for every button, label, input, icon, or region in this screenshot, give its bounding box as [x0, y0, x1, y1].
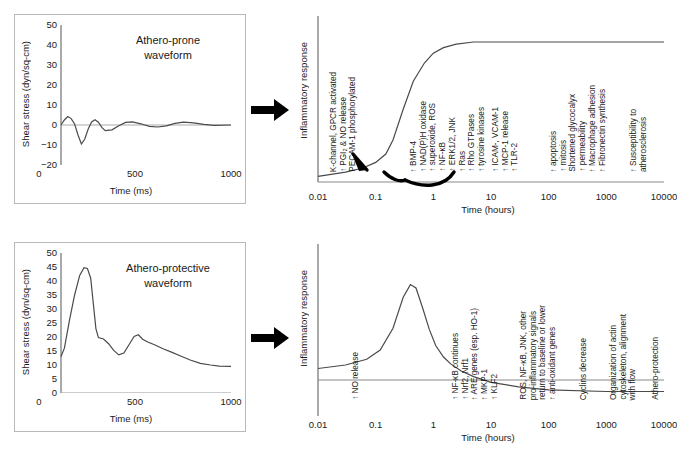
- x-tick-label: 100: [541, 192, 557, 202]
- title-line-1: Athero-protective: [95, 261, 241, 276]
- y-tick-label: 0: [52, 120, 57, 130]
- y-tick-label: 40: [46, 40, 57, 50]
- athero-protective-title: Athero-protective waveform: [95, 261, 241, 291]
- right-block-arrow: [250, 324, 290, 352]
- x-tick-label: 1000: [220, 397, 241, 407]
- x-tick-label: 0.1: [369, 420, 382, 430]
- waveform-x-axis-label: Time (ms): [15, 413, 247, 424]
- y-tick-label: 10: [46, 100, 57, 110]
- title-line-2: waveform: [95, 276, 241, 291]
- waveform-y-ticks: 50454035302520151050: [31, 253, 57, 393]
- x-tick-label: 0.1: [369, 192, 382, 202]
- x-tick-label: 1000: [596, 192, 617, 202]
- athero-protective-row: Shear stress (dyn/sq-cm) 504540353025201…: [0, 236, 670, 446]
- y-tick-label: 30: [46, 60, 57, 70]
- y-tick-label: 15: [46, 346, 57, 356]
- y-tick-label: 45: [46, 262, 57, 272]
- athero-protective-response-panel: Inflammatory response ↑ NO release↑ NF-κ…: [296, 236, 670, 446]
- y-tick-label: 25: [46, 318, 57, 328]
- x-tick-label: 100: [541, 420, 557, 430]
- athero-protective-response-plot: [312, 240, 664, 418]
- athero-prone-waveform-panel: Shear stress (dyn/sq-cm) 50403020100−10−…: [14, 14, 246, 204]
- y-tick-label: 50: [46, 20, 57, 30]
- title-line-1: Athero-prone: [95, 33, 241, 48]
- response-y-axis-label: Inflammatory response: [296, 242, 311, 394]
- y-tick-label: −10: [41, 140, 57, 150]
- athero-prone-title: Athero-prone waveform: [95, 33, 241, 63]
- y-tick-label: 5: [52, 374, 57, 384]
- x-tick-label: 500: [127, 169, 143, 179]
- x-tick-label: 10: [486, 420, 497, 430]
- response-y-axis-label: Inflammatory response: [296, 14, 311, 166]
- right-block-arrow: [250, 96, 290, 124]
- x-tick-label: 1: [431, 192, 436, 202]
- y-tick-label: 30: [46, 304, 57, 314]
- waveform-x-ticks: 05001000: [39, 169, 239, 183]
- athero-prone-row: Shear stress (dyn/sq-cm) 50403020100−10−…: [0, 8, 670, 218]
- x-tick-label: 0.01: [309, 420, 328, 430]
- x-tick-label: 0.01: [309, 192, 328, 202]
- x-tick-label: 10: [486, 192, 497, 202]
- x-tick-label: 1: [431, 420, 436, 430]
- x-tick-label: 500: [127, 397, 143, 407]
- title-line-2: waveform: [95, 48, 241, 63]
- waveform-y-ticks: 50403020100−10−20: [31, 25, 57, 165]
- x-tick-label: 0: [36, 397, 41, 407]
- y-tick-label: 20: [46, 332, 57, 342]
- y-tick-label: 40: [46, 276, 57, 286]
- y-tick-label: 20: [46, 80, 57, 90]
- x-tick-label: 1000: [220, 169, 241, 179]
- waveform-x-ticks: 05001000: [39, 397, 239, 411]
- athero-prone-response-panel: Inflammatory response K-channel, GPCR ac…: [296, 8, 670, 218]
- y-tick-label: 35: [46, 290, 57, 300]
- response-x-axis-label: Time (hours): [312, 432, 664, 443]
- athero-prone-response-plot: [312, 12, 664, 190]
- x-tick-label: 10000: [651, 192, 677, 202]
- waveform-x-axis-label: Time (ms): [15, 185, 247, 196]
- y-tick-label: 50: [46, 248, 57, 258]
- y-tick-label: 10: [46, 360, 57, 370]
- x-tick-label: 1000: [596, 420, 617, 430]
- athero-protective-waveform-panel: Shear stress (dyn/sq-cm) 504540353025201…: [14, 242, 246, 432]
- response-x-axis-label: Time (hours): [312, 204, 664, 215]
- x-tick-label: 0: [36, 169, 41, 179]
- x-tick-label: 10000: [651, 420, 677, 430]
